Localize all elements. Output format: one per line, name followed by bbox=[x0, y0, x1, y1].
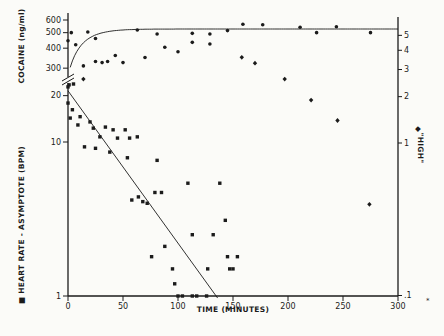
data-point-cocaine_ng_ml bbox=[94, 60, 98, 64]
data-point-heart_rate_minus_asymptote_bpm bbox=[71, 108, 74, 111]
data-point-cocaine_ng_ml bbox=[163, 46, 167, 50]
data-point-cocaine_ng_ml bbox=[136, 28, 140, 32]
data-point-heart_rate_minus_asymptote_bpm bbox=[218, 182, 221, 185]
right-tick-label: 1 bbox=[404, 139, 409, 148]
x-tick-label: 50 bbox=[118, 302, 128, 311]
data-point-cocaine_ng_ml bbox=[208, 42, 212, 46]
data-point-heart_rate_minus_asymptote_bpm bbox=[66, 101, 69, 104]
data-point-heart_rate_minus_asymptote_bpm bbox=[141, 200, 144, 203]
x-tick-label: 100 bbox=[170, 302, 185, 311]
data-point-heart_rate_minus_asymptote_bpm bbox=[171, 267, 174, 270]
x-axis-title: TIME (MINUTES) bbox=[197, 305, 269, 314]
data-point-cocaine_ng_ml bbox=[100, 61, 104, 65]
data-point-heart_rate_minus_asymptote_bpm bbox=[98, 135, 101, 138]
data-point-heart_rate_minus_asymptote_bpm bbox=[137, 195, 140, 198]
data-point-heart_rate_minus_asymptote_bpm bbox=[181, 294, 184, 297]
data-point-heart_rate_minus_asymptote_bpm bbox=[72, 82, 75, 85]
data-point-heart_rate_minus_asymptote_bpm bbox=[224, 219, 227, 222]
left-upper-tick-label: 600 bbox=[46, 16, 61, 25]
data-point-cocaine_ng_ml bbox=[261, 23, 265, 27]
data-point-heart_rate_minus_asymptote_bpm bbox=[150, 255, 153, 258]
left-upper-tick-label: 400 bbox=[46, 44, 61, 53]
data-point-heart_rate_minus_asymptote_bpm bbox=[228, 267, 231, 270]
data-point-cocaine_ng_ml bbox=[70, 31, 74, 35]
data-point-heart_rate_minus_asymptote_bpm bbox=[160, 191, 163, 194]
data-point-heart_rate_minus_asymptote_bpm bbox=[111, 128, 114, 131]
x-tick-label: 300 bbox=[390, 302, 405, 311]
figure-cocaine-time-course: 0501001502002503006005004003002010154321… bbox=[0, 0, 444, 336]
right-tick-label: .1 bbox=[404, 291, 412, 300]
data-point-cocaine_ng_ml bbox=[114, 54, 118, 58]
data-point-heart_rate_minus_asymptote_bpm bbox=[191, 233, 194, 236]
data-point-heart_rate_minus_asymptote_bpm bbox=[88, 120, 91, 123]
data-point-cocaine_ng_ml bbox=[143, 56, 147, 60]
data-point-heart_rate_minus_asymptote_bpm bbox=[206, 267, 209, 270]
data-point-heart_rate_minus_asymptote_bpm bbox=[176, 294, 179, 297]
data-point-cocaine_ng_ml bbox=[315, 31, 319, 35]
data-point-heart_rate_minus_asymptote_bpm bbox=[116, 136, 119, 139]
data-point-cocaine_ng_ml bbox=[74, 43, 78, 47]
data-point-cocaine_ng_ml bbox=[86, 30, 90, 34]
data-point-heart_rate_minus_asymptote_bpm bbox=[108, 150, 111, 153]
data-point-heart_rate_minus_asymptote_bpm bbox=[191, 294, 194, 297]
data-point-heart_rate_minus_asymptote_bpm bbox=[124, 128, 127, 131]
data-point-heart_rate_minus_asymptote_bpm bbox=[186, 182, 189, 185]
data-point-cocaine_ng_ml bbox=[121, 61, 125, 65]
right-tick-label: 3 bbox=[404, 65, 409, 74]
data-point-cocaine_ng_ml bbox=[66, 39, 70, 43]
data-point-heart_rate_minus_asymptote_bpm bbox=[146, 202, 149, 205]
data-point-heart_rate_minus_asymptote_bpm bbox=[76, 123, 79, 126]
left-lower-axis-title: ■ HEART RATE - ASYMPTOTE (BPM) bbox=[17, 146, 26, 304]
right-tick-label: 4 bbox=[404, 46, 409, 55]
left-upper-tick-label: 500 bbox=[46, 28, 61, 37]
plot-svg: 0501001502002503006005004003002010154321… bbox=[0, 0, 444, 336]
data-point-cocaine_ng_ml bbox=[155, 32, 159, 36]
data-point-heart_rate_minus_asymptote_bpm bbox=[128, 136, 131, 139]
plot-background bbox=[0, 0, 444, 336]
data-point-heart_rate_minus_asymptote_bpm bbox=[226, 255, 229, 258]
data-point-cocaine_ng_ml bbox=[191, 41, 195, 45]
right-axis-marker-icon: ◆ bbox=[415, 124, 421, 133]
data-point-heart_rate_minus_asymptote_bpm bbox=[78, 115, 81, 118]
left-lower-tick-label: 10 bbox=[51, 138, 61, 147]
data-point-cocaine_ng_ml bbox=[94, 37, 98, 41]
data-point-cocaine_ng_ml bbox=[335, 25, 339, 29]
data-point-heart_rate_minus_asymptote_bpm bbox=[104, 125, 107, 128]
left-upper-axis-title: COCAINE (ng/ml) bbox=[17, 8, 26, 83]
data-point-cocaine_ng_ml bbox=[241, 22, 245, 26]
x-tick-label: 0 bbox=[65, 302, 70, 311]
left-upper-tick-label: 300 bbox=[46, 64, 61, 73]
data-point-heart_rate_minus_asymptote_bpm bbox=[236, 255, 239, 258]
data-point-heart_rate_minus_asymptote_bpm bbox=[94, 147, 97, 150]
data-point-heart_rate_minus_asymptote_bpm bbox=[126, 156, 129, 159]
right-tick-label: 5 bbox=[404, 31, 409, 40]
right-tick-label: 2 bbox=[404, 92, 409, 101]
right-axis-title: "HIGH" bbox=[416, 132, 425, 163]
data-point-heart_rate_minus_asymptote_bpm bbox=[231, 267, 234, 270]
data-point-cocaine_ng_ml bbox=[369, 31, 373, 35]
data-point-heart_rate_minus_asymptote_bpm bbox=[69, 116, 72, 119]
data-point-heart_rate_minus_asymptote_bpm bbox=[163, 245, 166, 248]
data-point-heart_rate_minus_asymptote_bpm bbox=[153, 191, 156, 194]
data-point-heart_rate_minus_asymptote_bpm bbox=[212, 233, 215, 236]
data-point-cocaine_ng_ml bbox=[191, 32, 195, 36]
x-tick-label: 200 bbox=[280, 302, 295, 311]
data-point-heart_rate_minus_asymptote_bpm bbox=[136, 135, 139, 138]
data-point-heart_rate_minus_asymptote_bpm bbox=[67, 83, 70, 86]
data-point-heart_rate_minus_asymptote_bpm bbox=[195, 294, 198, 297]
data-point-cocaine_ng_ml bbox=[176, 50, 180, 54]
x-tick-label: 250 bbox=[335, 302, 350, 311]
data-point-cocaine_ng_ml bbox=[298, 26, 302, 30]
data-point-heart_rate_minus_asymptote_bpm bbox=[83, 145, 86, 148]
footnote-asterisk: * bbox=[426, 297, 430, 305]
data-point-heart_rate_minus_asymptote_bpm bbox=[92, 126, 95, 129]
data-point-cocaine_ng_ml bbox=[226, 29, 230, 33]
left-lower-tick-label: 1 bbox=[56, 292, 61, 301]
left-lower-tick-label: 20 bbox=[51, 91, 61, 100]
data-point-heart_rate_minus_asymptote_bpm bbox=[173, 282, 176, 285]
data-point-cocaine_ng_ml bbox=[106, 60, 110, 64]
data-point-cocaine_ng_ml bbox=[208, 32, 212, 36]
data-point-heart_rate_minus_asymptote_bpm bbox=[205, 294, 208, 297]
data-point-heart_rate_minus_asymptote_bpm bbox=[130, 198, 133, 201]
data-point-cocaine_ng_ml bbox=[82, 64, 86, 68]
